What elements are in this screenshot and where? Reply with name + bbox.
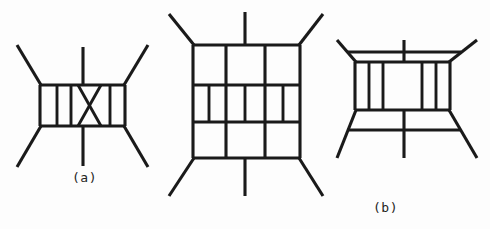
diagram-c-canvas bbox=[325, 0, 490, 229]
figure-root: (a) bbox=[0, 0, 490, 229]
leg-lower-left-a bbox=[17, 126, 41, 167]
leg-lower-right-a bbox=[124, 126, 148, 167]
diagram-a-external-legs bbox=[17, 45, 148, 167]
diagram-b-canvas bbox=[155, 0, 335, 229]
leg-lower-right-c bbox=[449, 110, 477, 158]
diagram-panel-c: (c) bbox=[325, 0, 490, 229]
diagram-a-canvas bbox=[0, 0, 170, 229]
leg-upper-right-a bbox=[124, 45, 148, 85]
diagram-c-external-legs bbox=[337, 40, 477, 158]
leg-upper-right-b bbox=[299, 14, 323, 45]
leg-lower-right-b bbox=[299, 158, 323, 196]
diagram-panel-b: (b) bbox=[155, 0, 335, 229]
leg-lower-left-b bbox=[169, 158, 194, 196]
leg-lower-left-c bbox=[337, 110, 356, 158]
diagram-b-i-rungs bbox=[209, 85, 283, 122]
diagram-a-rungs bbox=[57, 85, 110, 126]
leg-upper-left-a bbox=[17, 45, 41, 85]
diagram-c-rungs bbox=[369, 62, 436, 110]
diagram-panel-a: (a) bbox=[0, 0, 170, 229]
leg-upper-left-b bbox=[169, 14, 194, 45]
panel-label-a: (a) bbox=[72, 170, 97, 185]
